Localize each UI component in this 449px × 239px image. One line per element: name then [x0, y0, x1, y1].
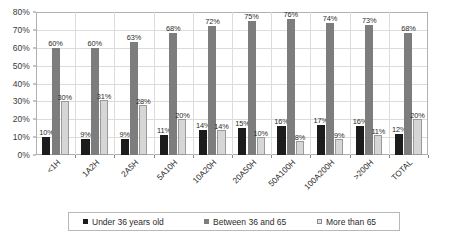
- bar-group: 16%73%11%: [350, 12, 389, 155]
- bar-value-label: 10%: [254, 129, 269, 138]
- legend-item[interactable]: Under 36 years old: [83, 217, 164, 227]
- bar-0: 14%: [199, 130, 207, 155]
- legend-item[interactable]: More than 65: [317, 217, 376, 227]
- legend-swatch-icon: [204, 219, 209, 224]
- category-separator: [193, 12, 194, 155]
- legend-label: More than 65: [326, 217, 376, 227]
- x-axis-tick-mark: [232, 155, 233, 158]
- bar-value-label: 60%: [88, 39, 103, 48]
- y-axis-tick-label: 50%: [13, 61, 30, 71]
- bar-value-label: 63%: [127, 33, 142, 42]
- x-axis-tick-mark: [271, 155, 272, 158]
- legend-swatch-icon: [317, 219, 322, 224]
- y-axis: 0%10%20%30%40%50%60%70%80%: [0, 12, 33, 155]
- bar-1: 68%: [169, 33, 177, 155]
- bar-value-label: 68%: [401, 24, 416, 33]
- bar-0: 15%: [238, 128, 246, 155]
- legend-label: Between 36 and 65: [213, 217, 286, 227]
- bar-value-label: 60%: [48, 39, 63, 48]
- bar-group: 16%76%8%: [271, 12, 310, 155]
- legend-item[interactable]: Between 36 and 65: [204, 217, 286, 227]
- bar-value-label: 20%: [410, 111, 425, 120]
- bar-value-label: 68%: [166, 24, 181, 33]
- y-axis-tick-label: 0%: [18, 150, 31, 160]
- x-axis-tick-mark: [350, 155, 351, 158]
- bar-1: 72%: [208, 26, 216, 155]
- x-axis: <1H1A2H2A5H5A10H10A20H20A50H50A100H100A2…: [36, 155, 428, 205]
- bar-2: 9%: [335, 139, 343, 155]
- bar-group: 15%75%10%: [232, 12, 271, 155]
- bar-2: 31%: [100, 100, 108, 155]
- category-separator: [154, 12, 155, 155]
- x-axis-tick-mark: [389, 155, 390, 158]
- bar-2: 30%: [61, 101, 69, 155]
- bar-value-label: 11%: [371, 127, 385, 136]
- bar-0: 10%: [42, 137, 50, 155]
- x-axis-tick-mark: [114, 155, 115, 158]
- x-axis-tick-mark: [310, 155, 311, 158]
- bar-value-label: 75%: [244, 12, 259, 21]
- bar-group: 17%74%9%: [310, 12, 349, 155]
- bar-2: 20%: [413, 119, 421, 155]
- bar-group: 10%60%30%: [36, 12, 75, 155]
- bar-value-label: 14%: [214, 122, 229, 131]
- bar-value-label: 31%: [97, 92, 112, 101]
- bar-group: 9%60%31%: [75, 12, 114, 155]
- bar-value-label: 74%: [323, 14, 338, 23]
- bar-0: 17%: [317, 125, 325, 155]
- legend-label: Under 36 years old: [92, 217, 164, 227]
- bar-value-label: 73%: [362, 16, 377, 25]
- y-axis-tick-label: 80%: [13, 7, 30, 17]
- y-axis-tick-label: 40%: [13, 79, 30, 89]
- bars-layer: 10%60%30%9%60%31%9%63%28%11%68%20%14%72%…: [36, 12, 428, 155]
- bar-1: 74%: [326, 23, 334, 155]
- x-axis-tick-mark: [428, 155, 429, 158]
- bar-group: 12%68%20%: [389, 12, 428, 155]
- category-separator: [350, 12, 351, 155]
- category-separator: [310, 12, 311, 155]
- bar-value-label: 76%: [284, 10, 299, 19]
- bar-2: 10%: [257, 137, 265, 155]
- bar-1: 68%: [404, 33, 412, 155]
- category-separator: [232, 12, 233, 155]
- bar-value-label: 8%: [295, 133, 305, 142]
- bar-value-label: 9%: [80, 130, 90, 139]
- bar-1: 60%: [91, 48, 99, 155]
- bar-1: 76%: [287, 19, 295, 155]
- bar-value-label: 9%: [334, 131, 344, 140]
- bar-2: 14%: [217, 130, 225, 155]
- category-separator: [75, 12, 76, 155]
- bar-0: 12%: [395, 134, 403, 155]
- bar-2: 20%: [178, 119, 186, 155]
- bar-2: 28%: [139, 105, 147, 155]
- bar-0: 9%: [121, 139, 129, 155]
- legend-swatch-icon: [83, 219, 88, 224]
- bar-0: 11%: [160, 135, 168, 155]
- bar-value-label: 28%: [136, 97, 151, 106]
- bar-group: 9%63%28%: [114, 12, 153, 155]
- bar-group: 11%68%20%: [154, 12, 193, 155]
- bar-value-label: 30%: [58, 93, 73, 102]
- x-axis-tick-mark: [75, 155, 76, 158]
- bar-value-label: 72%: [205, 17, 220, 26]
- chart-legend: Under 36 years oldBetween 36 and 65More …: [68, 212, 400, 231]
- bar-0: 9%: [81, 139, 89, 155]
- x-axis-tick-mark: [193, 155, 194, 158]
- category-separator: [389, 12, 390, 155]
- bar-value-label: 9%: [120, 130, 130, 139]
- bar-group: 14%72%14%: [193, 12, 232, 155]
- bar-0: 16%: [277, 126, 285, 155]
- y-axis-tick-label: 70%: [13, 25, 30, 35]
- bar-chart: 0%10%20%30%40%50%60%70%80% 10%60%30%9%60…: [0, 0, 449, 239]
- category-separator: [271, 12, 272, 155]
- bar-value-label: 20%: [175, 111, 190, 120]
- category-separator: [114, 12, 115, 155]
- y-axis-tick-label: 60%: [13, 43, 30, 53]
- y-axis-tick-label: 10%: [13, 132, 30, 142]
- x-axis-tick-mark: [154, 155, 155, 158]
- bar-0: 16%: [356, 126, 364, 155]
- y-axis-tick-label: 20%: [13, 114, 30, 124]
- y-axis-tick-label: 30%: [13, 96, 30, 106]
- bar-2: 8%: [296, 141, 304, 155]
- bar-2: 11%: [374, 135, 382, 155]
